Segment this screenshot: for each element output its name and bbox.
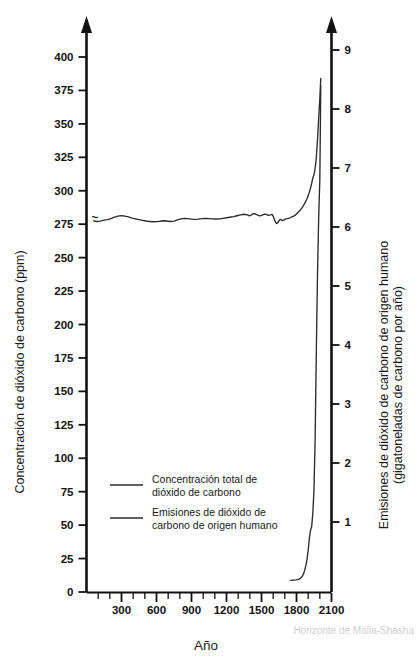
co2-emissions-chart: 0255075100125150175200225250275300325350…: [0, 0, 419, 664]
right-tick-label-5: 5: [345, 280, 352, 292]
right-tick-label-2: 2: [345, 457, 351, 469]
right-axis-title-line1: Emisiones de dióxido de carbono de orige…: [377, 241, 391, 529]
left-tick-label-75: 75: [61, 486, 74, 498]
left-tick-label-100: 100: [54, 452, 73, 464]
left-tick-label-350: 350: [54, 118, 73, 130]
right-tick-label-6: 6: [345, 221, 351, 233]
left-tick-label-150: 150: [54, 385, 73, 397]
left-tick-label-25: 25: [61, 553, 74, 565]
x-tick-label-1500: 1500: [249, 604, 275, 616]
legend-label-emissions-line1: Emisiones de dióxido de: [152, 506, 266, 518]
legend-label-emissions-line2: carbono de origen humano: [152, 519, 278, 531]
left-tick-label-325: 325: [54, 151, 74, 163]
legend-label-co2-line1: Concentración total de: [152, 473, 257, 485]
right-tick-label-4: 4: [345, 339, 352, 351]
x-tick-label-600: 600: [147, 604, 166, 616]
left-tick-label-275: 275: [54, 218, 74, 230]
right-tick-label-7: 7: [345, 162, 351, 174]
x-tick-label-1800: 1800: [284, 604, 310, 616]
left-tick-label-375: 375: [54, 84, 74, 96]
x-tick-label-900: 900: [182, 604, 201, 616]
x-tick-label-300: 300: [112, 604, 131, 616]
x-axis-title: Año: [194, 638, 218, 653]
left-tick-label-250: 250: [54, 252, 73, 264]
left-axis-title: Concentración de dióxido de carbono (ppm…: [13, 250, 27, 493]
right-axis-title-line2: (gigatoneladas de carbono por año): [391, 286, 405, 484]
x-tick-label-1200: 1200: [214, 604, 240, 616]
left-tick-label-175: 175: [54, 352, 74, 364]
left-tick-label-0: 0: [67, 586, 73, 598]
left-tick-label-125: 125: [54, 419, 74, 431]
x-tick-label-2100: 2100: [319, 604, 345, 616]
watermark-label: Horizonte de Malia-Shasha: [293, 625, 414, 636]
right-tick-label-8: 8: [345, 103, 352, 115]
right-tick-label-3: 3: [345, 398, 351, 410]
left-tick-label-50: 50: [61, 519, 74, 531]
right-tick-label-9: 9: [345, 44, 351, 56]
right-tick-label-1: 1: [345, 516, 352, 528]
left-tick-label-300: 300: [54, 185, 73, 197]
left-tick-label-200: 200: [54, 319, 73, 331]
left-tick-label-225: 225: [54, 285, 74, 297]
chart-container: 0255075100125150175200225250275300325350…: [0, 0, 419, 664]
legend-label-co2-line2: dióxido de carbono: [152, 486, 241, 498]
left-tick-label-400: 400: [54, 51, 73, 63]
